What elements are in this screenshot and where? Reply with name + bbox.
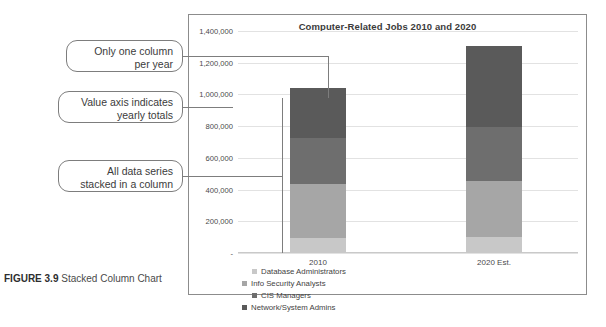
callout-connector-2-h bbox=[183, 176, 282, 177]
gridline bbox=[238, 63, 578, 64]
legend-label: Info Security Analysts bbox=[251, 279, 326, 288]
legend-label: Database Administrators bbox=[261, 267, 346, 276]
gridline bbox=[238, 94, 578, 95]
gridline bbox=[238, 126, 578, 127]
y-axis-tick-label: 800,000 bbox=[206, 122, 233, 131]
callout-line-1: Only one column bbox=[76, 45, 173, 58]
callout-line-2: yearly totals bbox=[68, 109, 173, 122]
bar-segments-2020 bbox=[466, 46, 522, 253]
x-axis-label-2020: 2020 Est. bbox=[466, 258, 522, 267]
legend-swatch-icon bbox=[252, 269, 257, 274]
bar-segment[interactable] bbox=[290, 184, 346, 238]
gridline bbox=[238, 190, 578, 191]
gridline bbox=[238, 253, 578, 254]
y-axis-tick-label: 600,000 bbox=[206, 153, 233, 162]
callout-connector-0-v bbox=[328, 56, 329, 98]
callout-value-axis: Value axis indicates yearly totals bbox=[58, 91, 183, 123]
bar-segment[interactable] bbox=[290, 138, 346, 184]
legend-label: CIS Managers bbox=[261, 291, 311, 300]
axis-baseline bbox=[238, 252, 578, 253]
legend-label: Network/System Admins bbox=[251, 303, 336, 312]
callout-one-column-per-year: Only one column per year bbox=[66, 40, 183, 72]
callout-connector-1-h bbox=[183, 107, 233, 108]
callout-line-1: All data series bbox=[68, 165, 173, 178]
bar-segments-2010 bbox=[290, 88, 346, 253]
bar-segment[interactable] bbox=[466, 181, 522, 237]
gridline bbox=[238, 31, 578, 32]
figure-container: Only one column per year Value axis indi… bbox=[0, 0, 606, 327]
legend-item[interactable]: Info Security Analysts bbox=[238, 279, 412, 288]
figure-caption-text: Stacked Column Chart bbox=[61, 273, 162, 284]
callout-line-2: stacked in a column bbox=[68, 178, 173, 191]
y-axis-tick-label: 400,000 bbox=[206, 185, 233, 194]
x-axis-label-2010: 2010 bbox=[290, 258, 346, 267]
bar-column-2010[interactable]: 2010 bbox=[290, 88, 346, 253]
chart-legend: Database AdministratorsInfo Security Ana… bbox=[238, 267, 578, 315]
plot-area: -200,000400,000600,000800,0001,000,0001,… bbox=[238, 31, 578, 253]
callout-line-2: per year bbox=[76, 58, 173, 71]
figure-number: FIGURE 3.9 bbox=[4, 273, 58, 284]
bar-segment[interactable] bbox=[466, 127, 522, 181]
legend-swatch-icon bbox=[242, 281, 247, 286]
figure-caption: FIGURE 3.9 Stacked Column Chart bbox=[4, 272, 176, 286]
y-axis-tick-label: 200,000 bbox=[206, 217, 233, 226]
bar-segment[interactable] bbox=[290, 238, 346, 253]
callout-connector-0-h bbox=[183, 56, 328, 57]
legend-swatch-icon bbox=[252, 293, 257, 298]
legend-item[interactable]: Network/System Admins bbox=[238, 303, 412, 312]
legend-item[interactable]: CIS Managers bbox=[238, 291, 422, 300]
gridline bbox=[238, 221, 578, 222]
bar-segment[interactable] bbox=[466, 46, 522, 127]
y-axis-tick-label: 1,000,000 bbox=[199, 90, 233, 99]
legend-swatch-icon bbox=[242, 305, 247, 310]
callout-line-1: Value axis indicates bbox=[68, 96, 173, 109]
bar-column-2020[interactable]: 2020 Est. bbox=[466, 46, 522, 253]
gridline bbox=[238, 158, 578, 159]
bar-segment[interactable] bbox=[466, 237, 522, 253]
y-axis-tick-label: 1,400,000 bbox=[199, 27, 233, 36]
y-axis-tick-label: 1,200,000 bbox=[199, 58, 233, 67]
callout-stacked-series: All data series stacked in a column bbox=[58, 160, 183, 192]
callout-connector-2-v bbox=[282, 98, 283, 253]
bar-segment[interactable] bbox=[290, 88, 346, 138]
y-axis-tick-label: - bbox=[230, 249, 233, 258]
legend-item[interactable]: Database Administrators bbox=[238, 267, 422, 276]
